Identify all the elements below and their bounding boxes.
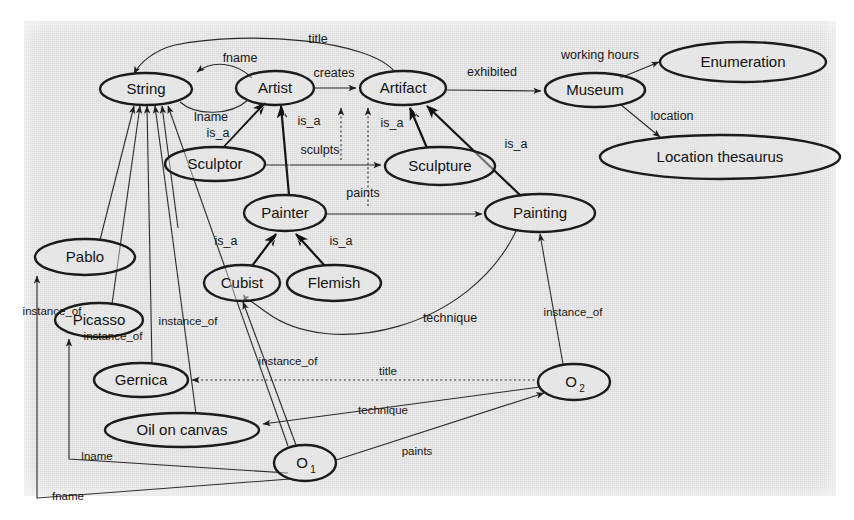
node-o1-subscript: 1 [310, 464, 316, 475]
node-museum-label: Museum [566, 81, 624, 98]
node-o1-label: O [296, 454, 308, 471]
edge-label-title-o2: title [379, 365, 397, 377]
edge-label-instance-of-o1: instance_of [259, 355, 319, 367]
edge-fname-artist-string [197, 64, 252, 78]
edge-is-a-flemish-painter-inner [294, 235, 322, 267]
node-gernica[interactable]: Gernica [94, 363, 188, 397]
node-cubist[interactable]: Cubist [204, 265, 280, 301]
edge-is-a-sculpture-artifact-inner [413, 108, 430, 147]
node-string[interactable]: String [100, 73, 192, 105]
node-artist[interactable]: Artist [236, 71, 314, 105]
edge-label-is-a-sculpture: is_a [381, 116, 404, 130]
node-string-label: String [126, 80, 165, 97]
edge-exhibited-artifact-museum [447, 90, 541, 91]
edge-label-location: location [650, 109, 693, 123]
node-o1[interactable]: O 1 [274, 445, 336, 481]
edge-label-fname-bottom: fname [52, 490, 84, 502]
node-sculpture-label: Sculpture [408, 157, 471, 174]
node-oil-on-canvas[interactable]: Oil on canvas [105, 413, 259, 447]
edge-is-a-cubist-painter [252, 234, 276, 266]
edge-label-is-a-cubist: is_a [215, 234, 238, 248]
node-location-thesaurus-label: Location thesaurus [657, 148, 784, 165]
edge-label-is-a-flemish: is_a [330, 234, 353, 248]
diagram-page: String Artist Artifact Museum Enumeratio… [0, 0, 854, 520]
node-painting[interactable]: Painting [485, 194, 595, 232]
edge-is-a-flemish-painter [296, 234, 325, 266]
edge-label-title-top: title [308, 32, 328, 46]
edge-instance-of-pablo-string [100, 106, 134, 240]
node-enumeration[interactable]: Enumeration [660, 42, 826, 82]
node-pablo[interactable]: Pablo [35, 239, 135, 275]
node-artifact[interactable]: Artifact [360, 71, 446, 105]
edge-is-a-cubist-painter-inner [255, 235, 278, 265]
edge-label-sculpts: sculpts [301, 143, 340, 157]
edge-label-instance-of-pablo: instance_of [23, 305, 83, 317]
node-location-thesaurus[interactable]: Location thesaurus [600, 135, 840, 179]
node-oil-on-canvas-label: Oil on canvas [137, 421, 228, 438]
semantic-network-graph: String Artist Artifact Museum Enumeratio… [0, 0, 854, 520]
node-cubist-label: Cubist [221, 274, 264, 291]
edge-label-working-hours: working hours [560, 48, 639, 62]
edge-is-a-sculpture-artifact [410, 108, 427, 148]
node-painting-label: Painting [513, 204, 567, 221]
node-painter[interactable]: Painter [244, 195, 326, 231]
node-gernica-label: Gernica [115, 371, 168, 388]
edge-label-exhibited: exhibited [467, 65, 517, 79]
node-enumeration-label: Enumeration [700, 53, 785, 70]
edge-label-technique-lower: technique [358, 404, 408, 416]
edge-is-a-sculptor-artist-inner [226, 104, 266, 146]
edge-label-technique-upper: technique [423, 311, 477, 325]
node-o2-label: O [565, 373, 577, 390]
edge-instance-of-o2-painting [540, 234, 563, 364]
edge-title-artifact-string [134, 38, 395, 74]
node-artist-label: Artist [258, 79, 293, 96]
edge-label-lname-top: lname [194, 110, 228, 124]
edge-label-instance-of-picasso: instance_of [84, 330, 144, 342]
edge-label-is-a-painting: is_a [505, 137, 528, 151]
node-artifact-label: Artifact [380, 79, 428, 96]
node-painter-label: Painter [261, 204, 309, 221]
edge-label-instance-of-o2: instance_of [544, 306, 604, 318]
node-sculpture[interactable]: Sculpture [385, 147, 495, 185]
edge-label-is-a-painter: is_a [298, 114, 321, 128]
node-sculptor-label: Sculptor [187, 155, 242, 172]
edge-label-instance-of-cubist: instance_of [159, 315, 219, 327]
edge-label-fname-top: fname [223, 51, 258, 65]
edge-label-paints-o1: paints [402, 445, 433, 457]
node-sculptor[interactable]: Sculptor [165, 147, 265, 181]
edge-label-lname-bottom: lname [81, 450, 112, 462]
node-museum[interactable]: Museum [545, 73, 645, 107]
edge-label-creates: creates [314, 66, 355, 80]
node-flemish-label: Flemish [308, 274, 361, 291]
node-o2-subscript: 2 [579, 383, 585, 394]
node-o2[interactable]: O 2 [538, 364, 610, 400]
edge-instance-of-gernica-string [147, 106, 152, 364]
edge-label-paints: paints [346, 186, 379, 200]
node-pablo-label: Pablo [66, 248, 104, 265]
node-flemish[interactable]: Flemish [287, 265, 381, 301]
edge-label-is-a-sculptor: is_a [207, 126, 230, 140]
